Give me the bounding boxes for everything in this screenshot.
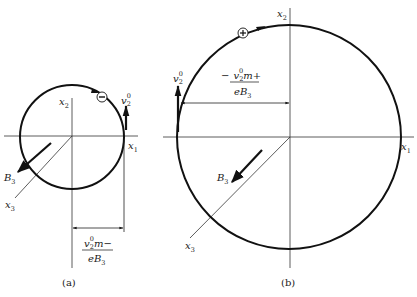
x2-label-b: x2 xyxy=(277,8,287,22)
svg-text:eB3: eB3 xyxy=(234,86,251,100)
svg-text:v02m−: v02m− xyxy=(84,235,112,251)
x2-label-a: x2 xyxy=(59,96,69,110)
panel-a: v02 B3 x1 x2 x3 v02m− eB3 (a) xyxy=(3,85,138,288)
magnetic-orbit-figure: v02 B3 x1 x2 x3 v02m− eB3 (a) xyxy=(0,0,417,297)
field-label-a: B3 xyxy=(3,172,16,186)
x1-label-a: x1 xyxy=(128,140,138,154)
negative-charge-icon xyxy=(97,92,107,102)
velocity-label-b: v02 xyxy=(173,70,183,86)
field-label-b: B3 xyxy=(216,172,229,186)
x3-label-b: x3 xyxy=(185,240,195,254)
magnetic-field-arrow-b xyxy=(232,150,262,182)
x3-label-a: x3 xyxy=(5,199,15,213)
magnetic-field-arrow-a xyxy=(18,143,51,172)
x1-label-b: x1 xyxy=(401,141,411,155)
radius-formula-a: v02m− eB3 xyxy=(82,235,113,267)
svg-text:−v02m+: −v02m+ xyxy=(221,67,261,83)
velocity-label-a: v02 xyxy=(121,92,131,108)
radius-formula-b: −v02m+ eB3 xyxy=(221,67,261,100)
x3-axis-b xyxy=(190,137,290,238)
svg-text:eB3: eB3 xyxy=(88,253,105,267)
panel-b: v02 B3 x1 x2 x3 −v02m+ eB3 (b) xyxy=(163,8,414,288)
caption-b: (b) xyxy=(281,277,295,288)
caption-a: (a) xyxy=(62,277,76,288)
positive-charge-icon xyxy=(238,28,248,38)
